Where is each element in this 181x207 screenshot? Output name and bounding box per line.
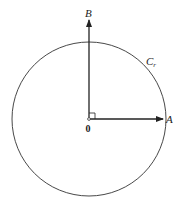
label-cr: Cr	[146, 55, 156, 69]
label-b: B	[85, 7, 92, 19]
diagram-canvas: B A 0 Cr	[0, 0, 181, 207]
origin-point	[88, 118, 91, 121]
label-a: A	[165, 113, 173, 125]
label-origin: 0	[86, 123, 91, 134]
label-cr-sub: r	[153, 61, 156, 69]
